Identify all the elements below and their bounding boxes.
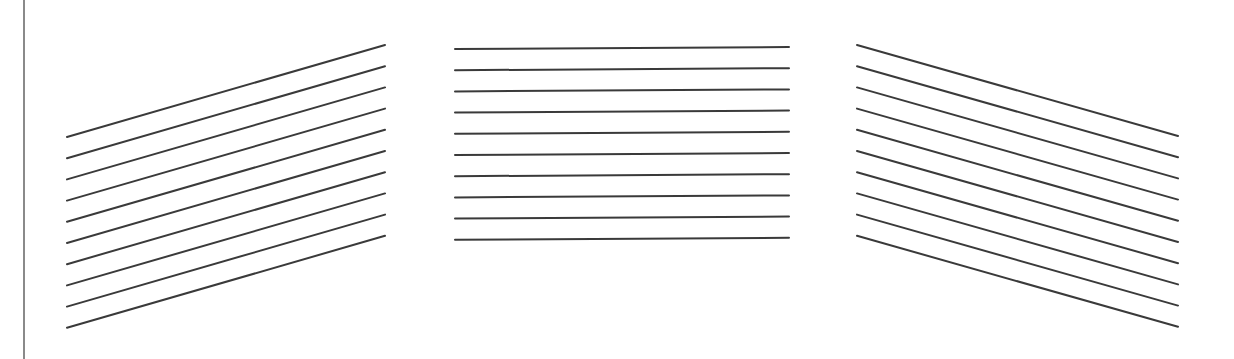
horizontal-line	[455, 174, 789, 176]
horizontal-line	[455, 111, 789, 113]
horizontal-line	[455, 132, 789, 134]
rising-lines-group	[67, 45, 385, 328]
falling-lines-group	[857, 45, 1178, 327]
horizontal-line	[455, 47, 789, 49]
horizontal-line	[455, 238, 789, 240]
diagram-canvas	[0, 0, 1234, 359]
horizontal-line	[455, 195, 789, 197]
horizontal-line	[455, 68, 789, 70]
horizontal-lines-group	[455, 47, 789, 240]
horizontal-line	[455, 89, 789, 91]
horizontal-line	[455, 153, 789, 155]
horizontal-line	[455, 217, 789, 219]
